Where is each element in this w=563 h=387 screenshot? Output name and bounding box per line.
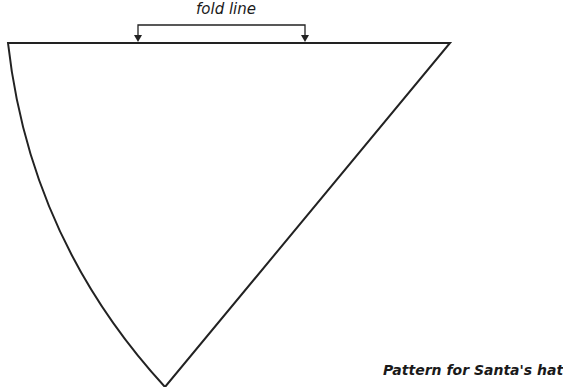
pattern-outline [8,43,450,387]
pattern-caption: Pattern for Santa's hat [383,362,563,378]
fold-line-label: fold line [196,0,256,18]
fold-line-bracket [138,25,305,36]
arrow-down-icon [301,35,309,42]
arrow-down-icon [134,35,142,42]
